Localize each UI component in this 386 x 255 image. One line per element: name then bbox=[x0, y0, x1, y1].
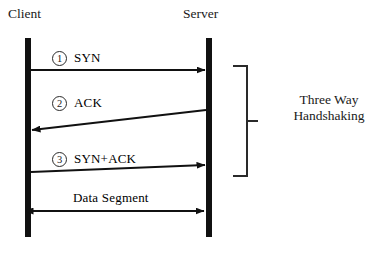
step-number-1: 1 bbox=[52, 51, 67, 66]
message-label-syn: 1 SYN bbox=[52, 50, 101, 66]
message-text-syn: SYN bbox=[74, 50, 101, 66]
annotation-line-1: Three Way bbox=[276, 92, 382, 108]
lifeline-client bbox=[25, 38, 31, 237]
arrow-ack bbox=[32, 110, 206, 130]
message-text-syn-ack: SYN+ACK bbox=[74, 151, 136, 167]
annotation-three-way-handshaking: Three Way Handshaking bbox=[276, 92, 382, 124]
annotation-line-2: Handshaking bbox=[276, 108, 382, 124]
message-text-data-segment: Data Segment bbox=[73, 190, 149, 206]
sequence-diagram: Client Server 1 SYN 2 ACK 3 SYN+ACK Data… bbox=[0, 0, 386, 255]
grouping-bracket bbox=[233, 66, 247, 176]
lifeline-server bbox=[206, 38, 212, 237]
message-label-data-segment: Data Segment bbox=[73, 190, 149, 206]
actor-label-server: Server bbox=[183, 6, 218, 22]
message-text-ack: ACK bbox=[74, 95, 102, 111]
step-number-3: 3 bbox=[52, 152, 67, 167]
step-number-2: 2 bbox=[52, 96, 67, 111]
message-label-syn-ack: 3 SYN+ACK bbox=[52, 151, 136, 167]
actor-label-client: Client bbox=[8, 6, 41, 22]
message-label-ack: 2 ACK bbox=[52, 95, 102, 111]
diagram-canvas bbox=[0, 0, 386, 255]
